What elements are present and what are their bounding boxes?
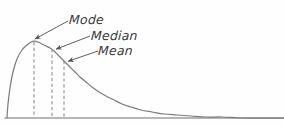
distribution-figure: Mode Median Mean [0, 0, 284, 126]
median-label: Median [91, 30, 138, 43]
median-arrow [56, 36, 90, 49]
figure-canvas [0, 0, 284, 126]
mean-arrow [68, 51, 98, 61]
mean-label: Mean [98, 45, 134, 58]
density-curve [7, 41, 284, 118]
mode-arrow [35, 21, 68, 39]
mode-label: Mode [69, 14, 105, 27]
